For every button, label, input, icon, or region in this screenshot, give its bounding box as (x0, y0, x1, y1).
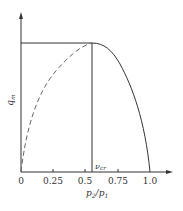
solid-curve (92, 43, 150, 172)
crit-label: νcr (95, 162, 107, 171)
dashed-curve (21, 43, 92, 172)
tick-label-0: 0 (18, 176, 24, 186)
y-axis-arrow-icon (19, 12, 23, 19)
y-axis-label: qm (5, 94, 16, 106)
tick-label-1: 1.0 (143, 176, 158, 186)
x-axis-arrow-icon (166, 170, 173, 174)
tick-label-075: 0.75 (108, 176, 128, 186)
tick-label-025: 0.25 (43, 176, 63, 186)
x-axis-label: p2/p1 (86, 188, 108, 199)
chart: 0 0.25 0.5 0.75 1.0 νcr p2/p1 qm (0, 0, 183, 211)
tick-label-05: 0.5 (78, 176, 93, 186)
